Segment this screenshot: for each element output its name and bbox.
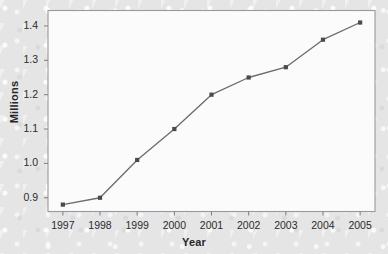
x-tick-label: 1999	[120, 219, 154, 231]
data-point-marker	[358, 20, 362, 24]
x-axis-title: Year	[0, 236, 388, 248]
chart-plot-area	[0, 0, 388, 254]
data-point-marker	[98, 196, 102, 200]
x-tick-label: 2001	[195, 219, 229, 231]
x-tick-label: 2003	[269, 219, 303, 231]
x-tick-label: 2004	[306, 219, 340, 231]
line-chart: 0.91.01.11.21.31.4 199719981999200020012…	[0, 0, 388, 254]
y-tick-label: 0.9	[12, 191, 38, 203]
data-point-marker	[321, 38, 325, 42]
data-point-marker	[284, 65, 288, 69]
y-tick-label: 1.3	[12, 53, 38, 65]
x-tick-label: 2005	[343, 219, 377, 231]
y-axis-title: Millions	[8, 72, 20, 132]
data-point-marker	[209, 93, 213, 97]
y-tick-label: 1.0	[12, 156, 38, 168]
x-tick-label: 1997	[46, 219, 80, 231]
data-point-marker	[247, 75, 251, 79]
y-tick-label: 1.4	[12, 19, 38, 31]
x-tick-label: 2000	[157, 219, 191, 231]
x-tick-label: 1998	[83, 219, 117, 231]
plot-panel	[48, 11, 375, 212]
x-axis-tick-marks	[63, 212, 360, 216]
data-point-marker	[135, 158, 139, 162]
data-point-marker	[172, 127, 176, 131]
y-axis-tick-marks	[44, 26, 48, 198]
x-tick-label: 2002	[232, 219, 266, 231]
data-point-marker	[61, 203, 65, 207]
